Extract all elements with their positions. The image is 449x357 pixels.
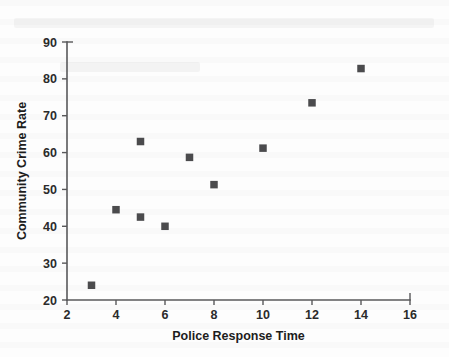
x-tick-label: 4 [113,308,120,322]
data-point-marker [210,181,218,189]
data-point-marker [137,138,145,146]
y-tick-label: 30 [43,257,57,271]
y-tick-label: 50 [43,183,57,197]
x-tick-label: 6 [162,308,169,322]
x-tick-label: 10 [256,308,270,322]
data-point-marker [161,223,169,231]
y-tick-label: 70 [43,109,57,123]
y-tick-label: 90 [43,36,57,50]
chart-page: 2030405060708090246810121416Police Respo… [0,0,449,357]
data-point-marker [112,206,120,214]
data-point-marker [308,99,316,107]
scatter-plot: 2030405060708090246810121416Police Respo… [0,0,449,357]
data-point-marker [186,154,194,162]
y-tick-label: 80 [43,72,57,86]
x-tick-label: 14 [354,308,368,322]
data-point-marker [259,144,267,152]
x-axis-title: Police Response Time [172,329,305,343]
y-tick-label: 40 [43,220,57,234]
data-point-marker [137,213,145,221]
y-tick-label: 60 [43,146,57,160]
plot-canvas: 2030405060708090246810121416Police Respo… [0,0,449,357]
data-point-marker [357,65,365,73]
y-axis-title: Community Crime Rate [15,102,29,240]
x-tick-label: 12 [305,308,319,322]
y-tick-label: 20 [43,294,57,308]
x-tick-label: 8 [211,308,218,322]
x-tick-label: 16 [403,308,417,322]
x-tick-label: 2 [64,308,71,322]
data-point-marker [88,282,96,290]
